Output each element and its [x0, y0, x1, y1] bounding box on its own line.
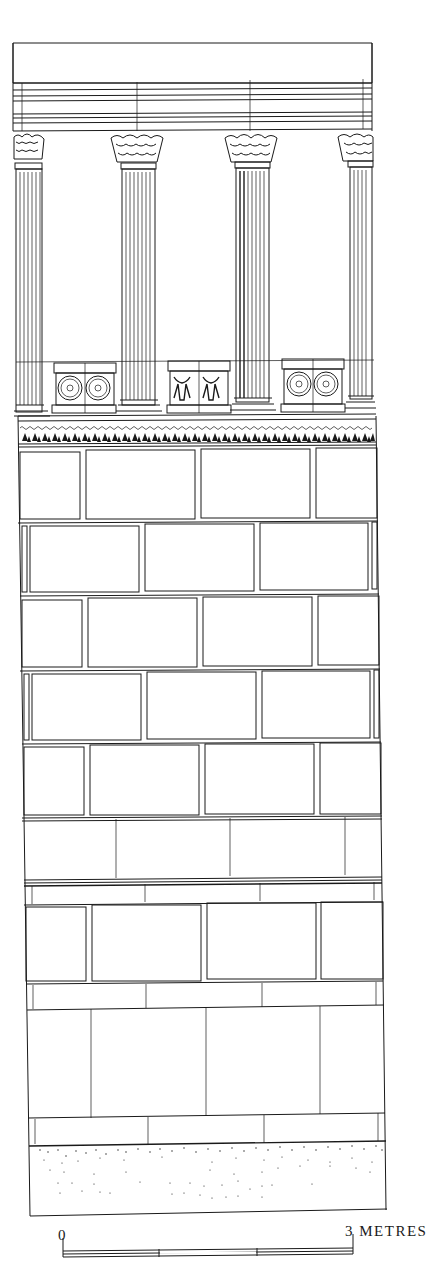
masonry-course-3: [20, 596, 380, 671]
wall-right-edge: [376, 416, 386, 1210]
column-3: [225, 135, 277, 411]
masonry-course-5: [22, 743, 382, 821]
rosette-icon: [287, 372, 311, 396]
scale-start-label: 0: [58, 1227, 67, 1244]
pedestal-bucrania-center: [167, 361, 231, 413]
rosette-icon: [314, 372, 338, 396]
wall-left-edge: [18, 416, 30, 1216]
scale-end-label: 3 METRES: [345, 1223, 427, 1240]
masonry-large-blocks: [28, 1006, 385, 1118]
bucranium-icon: [174, 377, 190, 400]
pedestal-rosettes-right: [281, 359, 345, 412]
ornamental-frieze: [18, 414, 376, 447]
masonry-thin-course-2: [27, 982, 384, 1010]
pedestal-rosettes-left: [52, 363, 116, 413]
rosette-icon: [58, 376, 82, 400]
column-2: [111, 135, 163, 411]
scale-bar: [63, 1234, 353, 1257]
attic-block: [13, 43, 372, 83]
masonry-course-6: [26, 902, 383, 984]
masonry-plain-course: [24, 817, 382, 886]
rosette-icon: [86, 376, 110, 400]
column-1: [14, 134, 50, 416]
masonry-course-4: [22, 670, 381, 744]
architectural-elevation-drawing: [0, 0, 430, 1287]
masonry-course-2: [20, 522, 379, 596]
foundation-ground: [30, 1145, 387, 1216]
entablature: [13, 43, 372, 131]
bucranium-icon: [203, 377, 219, 400]
masonry-course-1: [18, 448, 378, 523]
masonry-base-course: [29, 1113, 386, 1146]
